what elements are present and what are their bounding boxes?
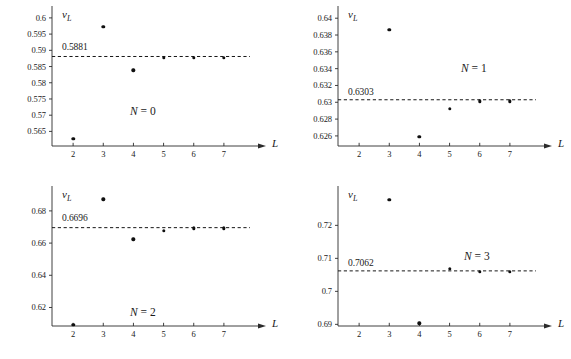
panel-tag-equals: = [472,250,484,262]
x-tick-label: 4 [417,330,421,339]
y-tick-label: 0.72 [318,221,332,230]
plot-area: 0.620.640.660.68234567LνL0.6696N = 2 [0,180,285,359]
y-tick-label: 0.57 [32,111,46,120]
y-tick-label: 0.64 [32,271,46,280]
panel-tag-n-value: N = 2 [130,306,156,318]
y-axis-label: νL [348,8,357,23]
chart-panel-n1: 0.6260.6280.630.6320.6340.6360.6380.6423… [286,0,571,179]
plot-area: 0.5650.570.5750.580.5850.590.5950.623456… [0,0,285,179]
panel-tag-equals: = [138,105,150,117]
y-tick-label: 0.62 [32,303,46,312]
x-tick-label: 5 [447,330,451,339]
x-axis-arrowhead [258,323,266,328]
y-tick-label: 0.64 [318,14,332,23]
x-tick-label: 6 [478,330,482,339]
x-tick-label: 7 [222,150,226,159]
axes-and-data [0,0,285,179]
panel-tag-value: 3 [484,250,490,262]
y-tick-label: 0.626 [313,132,332,141]
y-tick-label: 0.565 [27,127,46,136]
y-tick-label: 0.628 [313,115,332,124]
panel-tag-symbol: N [461,62,469,74]
x-tick-label: 6 [478,150,482,159]
y-tick-label: 0.595 [27,30,46,39]
plot-area: 0.6260.6280.630.6320.6340.6360.6380.6423… [286,0,571,179]
panel-tag-value: 2 [150,306,156,318]
y-tick-label: 0.68 [32,207,46,216]
asymptote-value-label: 0.7062 [348,258,374,268]
y-tick-label: 0.638 [313,31,332,40]
y-axis-label: νL [62,188,71,203]
panel-tag-n-value: N = 1 [461,62,487,74]
x-tick-label: 3 [101,150,105,159]
chart-panel-n2: 0.620.640.660.68234567LνL0.6696N = 2 [0,180,285,359]
y-tick-label: 0.636 [313,48,332,57]
asymptote-value-label: 0.5881 [62,42,88,52]
figure-four-panel-convergence-plots: 0.5650.570.5750.580.5850.590.5950.623456… [0,0,571,359]
x-axis-label: L [558,317,564,329]
x-tick-label: 3 [101,330,105,339]
x-tick-label: 7 [222,330,226,339]
x-tick-label: 4 [131,330,135,339]
y-tick-label: 0.63 [318,98,332,107]
x-tick-label: 5 [447,150,451,159]
x-tick-label: 6 [192,330,196,339]
plot-area: 0.690.70.710.72234567LνL0.7062N = 3 [286,180,571,359]
y-tick-label: 0.69 [318,320,332,329]
x-tick-label: 4 [417,150,421,159]
y-tick-label: 0.634 [313,64,332,73]
x-tick-label: 7 [508,150,512,159]
y-axis-label: νL [62,8,71,23]
panel-tag-n-value: N = 3 [464,250,490,262]
x-axis-arrowhead [258,143,266,148]
chart-panel-n0: 0.5650.570.5750.580.5850.590.5950.623456… [0,0,285,179]
x-axis-label: L [272,137,278,149]
panel-tag-symbol: N [130,306,138,318]
y-tick-label: 0.585 [27,62,46,71]
x-tick-label: 3 [387,150,391,159]
y-axis-label: νL [348,188,357,203]
panel-tag-value: 1 [481,62,487,74]
panel-tag-value: 0 [150,105,156,117]
x-axis-label: L [272,317,278,329]
y-tick-label: 0.6 [36,14,46,23]
panel-tag-n-value: N = 0 [130,105,156,117]
asymptote-value-label: 0.6303 [348,87,374,97]
x-tick-label: 6 [192,150,196,159]
x-axis-arrowhead [544,143,552,148]
x-tick-label: 2 [71,150,75,159]
y-tick-label: 0.58 [32,79,46,88]
axes-and-data [286,180,571,359]
panel-tag-symbol: N [130,105,138,117]
panel-tag-equals: = [138,306,150,318]
y-tick-label: 0.66 [32,239,46,248]
x-tick-label: 4 [131,150,135,159]
x-axis-arrowhead [544,323,552,328]
x-tick-label: 3 [387,330,391,339]
x-axis-label: L [558,137,564,149]
x-tick-label: 2 [357,330,361,339]
y-tick-label: 0.575 [27,95,46,104]
x-tick-label: 5 [161,330,165,339]
x-tick-label: 2 [357,150,361,159]
x-tick-label: 2 [71,330,75,339]
y-tick-label: 0.7 [322,287,332,296]
x-tick-label: 7 [508,330,512,339]
panel-tag-symbol: N [464,250,472,262]
chart-panel-n3: 0.690.70.710.72234567LνL0.7062N = 3 [286,180,571,359]
y-tick-label: 0.71 [318,254,332,263]
x-tick-label: 5 [161,150,165,159]
panel-tag-equals: = [469,62,481,74]
asymptote-value-label: 0.6696 [62,213,88,223]
y-tick-label: 0.59 [32,46,46,55]
y-tick-label: 0.632 [313,81,332,90]
